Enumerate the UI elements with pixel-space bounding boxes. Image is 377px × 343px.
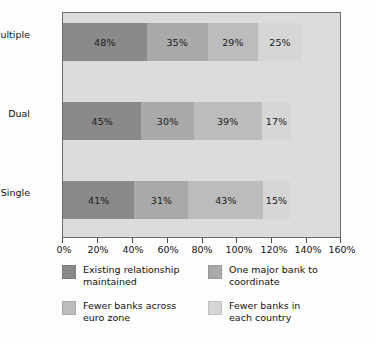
legend-swatch-icon: [62, 265, 76, 279]
bar-segment-value: 35%: [166, 37, 187, 48]
x-axis-ticklabel: 40%: [122, 244, 143, 255]
bar-segment-value: 15%: [266, 195, 287, 206]
bar-segment-value: 17%: [266, 116, 287, 127]
legend-label-line2: maintained: [83, 276, 180, 288]
legend-label-line1: Fewer banks across: [83, 300, 176, 311]
bar-segment-value: 48%: [94, 37, 115, 48]
legend-swatch-icon: [62, 301, 76, 315]
bar-segment-value: 39%: [217, 116, 238, 127]
x-axis-tick: [340, 238, 341, 243]
bar-segment[interactable]: 17%: [262, 102, 292, 140]
plot-area: 48% 35% 29% 25% 45% 30%: [62, 12, 341, 238]
legend-label-line2: coordinate: [229, 276, 318, 288]
y-axis-label-single: Single: [0, 187, 30, 198]
bar-segment-value: 45%: [92, 116, 113, 127]
bar-segment[interactable]: 35%: [147, 23, 208, 61]
chart-legend: Existing relationship maintained One maj…: [62, 264, 362, 336]
x-axis-tick: [167, 238, 168, 243]
x-axis-tick: [236, 238, 237, 243]
bar-segment-value: 31%: [151, 195, 172, 206]
legend-item-one-major-bank-to-coordinate[interactable]: One major bank to coordinate: [208, 264, 348, 300]
bar-segment-value: 41%: [88, 195, 109, 206]
legend-label: Fewer banks across euro zone: [83, 300, 176, 323]
legend-swatch-icon: [208, 265, 222, 279]
legend-swatch-icon: [208, 301, 222, 315]
x-axis-tick: [271, 238, 272, 243]
bar-segment[interactable]: 30%: [141, 102, 193, 140]
bar-segment-value: 25%: [269, 37, 290, 48]
bar-segment[interactable]: 43%: [188, 181, 263, 219]
bar-segment-value: 29%: [222, 37, 243, 48]
x-axis-ticklabel: 0%: [56, 244, 71, 255]
bar-segment[interactable]: 29%: [208, 23, 259, 61]
bar-segment-value: 30%: [157, 116, 178, 127]
x-axis-tick: [132, 238, 133, 243]
legend-label: One major bank to coordinate: [229, 264, 318, 287]
legend-label-line2: euro zone: [83, 312, 176, 324]
bar-segment[interactable]: 25%: [258, 23, 302, 61]
x-axis-ticklabels: 0% 20% 40% 60% 80% 100% 120% 140% 160%: [0, 244, 377, 258]
x-axis-tick: [202, 238, 203, 243]
legend-label-line1: Existing relationship: [83, 264, 180, 275]
bar-row-multiple: 48% 35% 29% 25%: [63, 23, 340, 61]
bar-segment-value: 43%: [215, 195, 236, 206]
y-axis-label-dual: Dual: [0, 108, 30, 119]
chart-figure: Multiple Dual Single 48% 35% 29% 25%: [0, 0, 377, 343]
x-axis-ticklabel: 120%: [260, 244, 287, 255]
bar-segment[interactable]: 41%: [63, 181, 134, 219]
legend-label-line1: One major bank to: [229, 264, 318, 275]
bar-track: 45% 30% 39% 17%: [63, 102, 291, 140]
x-axis-tick: [306, 238, 307, 243]
y-axis-label-multiple: Multiple: [0, 29, 30, 40]
x-axis-ticklabel: 100%: [225, 244, 252, 255]
bar-segment[interactable]: 45%: [63, 102, 141, 140]
legend-item-fewer-banks-in-each-country[interactable]: Fewer banks in each country: [208, 300, 348, 336]
bar-track: 41% 31% 43% 15%: [63, 181, 290, 219]
legend-label: Fewer banks in each country: [229, 300, 300, 323]
bar-segment[interactable]: 31%: [134, 181, 188, 219]
x-axis-ticklabel: 20%: [87, 244, 108, 255]
bar-row-single: 41% 31% 43% 15%: [63, 181, 340, 219]
legend-item-fewer-banks-across-euro-zone[interactable]: Fewer banks across euro zone: [62, 300, 202, 336]
x-axis-ticklabel: 160%: [328, 244, 355, 255]
x-axis-ticklabel: 80%: [191, 244, 212, 255]
legend-label-line1: Fewer banks in: [229, 300, 300, 311]
legend-label-line2: each country: [229, 312, 300, 324]
bar-segment[interactable]: 48%: [63, 23, 147, 61]
x-axis-ticklabel: 140%: [294, 244, 321, 255]
legend-item-existing-relationship-maintained[interactable]: Existing relationship maintained: [62, 264, 202, 300]
bar-segment[interactable]: 15%: [263, 181, 289, 219]
bar-segment[interactable]: 39%: [194, 102, 262, 140]
x-axis-tick: [62, 238, 63, 243]
bar-track: 48% 35% 29% 25%: [63, 23, 302, 61]
bar-row-dual: 45% 30% 39% 17%: [63, 102, 340, 140]
x-axis-tick: [97, 238, 98, 243]
x-axis-ticklabel: 60%: [157, 244, 178, 255]
legend-label: Existing relationship maintained: [83, 264, 180, 287]
